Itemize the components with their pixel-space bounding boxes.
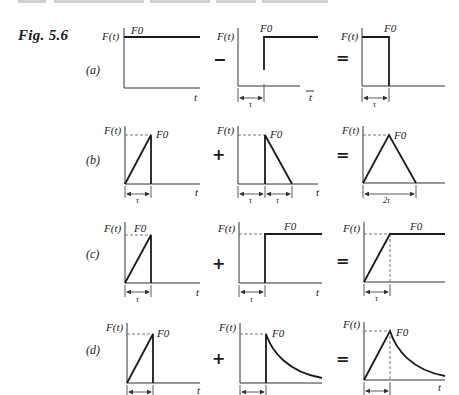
x-axis-label: t <box>309 91 313 103</box>
y-axis-label: F(t) <box>103 222 121 235</box>
x-axis-label: t <box>195 186 199 198</box>
y-axis-label: F(t) <box>105 321 123 334</box>
amplitude-label: F0 <box>283 220 297 232</box>
duration-label: τ <box>136 295 140 304</box>
y-axis-label: F(t) <box>342 222 360 235</box>
y-axis-label: F(t) <box>101 30 119 43</box>
panel-b1: F(t) F0 t τ <box>103 124 200 205</box>
x-axis-label: t <box>316 286 320 298</box>
amplitude-label: F0 <box>156 327 170 339</box>
amplitude-label: F0 <box>383 22 397 34</box>
panel-c3: F(t) F0 τ <box>342 220 445 303</box>
y-axis-label: F(t) <box>216 124 234 137</box>
x-axis-label: t <box>197 384 201 395</box>
y-axis-label: F(t) <box>217 222 235 235</box>
panel-c2: F(t) F0 t τ <box>217 220 322 304</box>
panel-d1: F(t) F0 t <box>105 321 201 395</box>
y-axis-label: F(t) <box>341 124 359 137</box>
panel-b3: F(t) F0 2τ <box>341 124 445 205</box>
duration-label: τ <box>375 294 379 303</box>
amplitude-label: F0 <box>409 220 423 232</box>
duration-label: τ <box>249 196 253 205</box>
duration-label: τ <box>136 196 140 205</box>
duration-label: τ <box>276 196 280 205</box>
duration-label: τ <box>373 100 377 109</box>
panel-a2: F(t) F0 t τ <box>216 22 318 109</box>
y-axis-label: F(t) <box>216 30 234 43</box>
amplitude-label: F0 <box>130 24 144 36</box>
amplitude-label: F0 <box>155 128 169 140</box>
panel-d3: F(t) F0 t <box>342 318 445 395</box>
panel-a3: F(t) F0 τ <box>340 22 445 109</box>
panel-d2: F(t) F0 <box>218 321 322 395</box>
panel-b2: F(t) F0 t τ τ <box>216 124 320 205</box>
duration-label: τ <box>249 100 253 109</box>
waveform-diagram: F(t) F0 t F(t) F0 t τ F(t) F0 τ F(t) F0 … <box>0 0 459 395</box>
y-axis-label: F(t) <box>103 124 121 137</box>
amplitude-label: F0 <box>269 128 283 140</box>
panel-c1: F(t) F0 t τ <box>103 222 200 304</box>
double-duration-label: 2τ <box>383 196 391 205</box>
amplitude-label: F0 <box>271 327 285 339</box>
x-axis-label: t <box>438 381 442 393</box>
amplitude-label: F0 <box>395 326 409 338</box>
x-axis-label: t <box>194 91 198 103</box>
amplitude-label: F0 <box>259 22 273 34</box>
x-axis-label: t <box>316 186 320 198</box>
y-axis-label: F(t) <box>340 30 358 43</box>
amplitude-label: F0 <box>393 129 407 141</box>
y-axis-label: F(t) <box>218 321 236 334</box>
panel-a1: F(t) F0 t <box>101 24 200 103</box>
y-axis-label: F(t) <box>342 318 360 331</box>
amplitude-label: F0 <box>133 222 147 234</box>
duration-label: τ <box>250 295 254 304</box>
x-axis-label: t <box>196 286 200 298</box>
